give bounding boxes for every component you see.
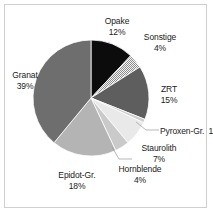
slice-label-staurolith-name: Staurolith: [134, 143, 184, 154]
slice-label-staurolith: Staurolith 7%: [134, 143, 184, 164]
slice-label-opake: Opake 12%: [95, 16, 139, 37]
slice-label-granat-value: 39%: [5, 81, 45, 92]
slice-label-pyroxen: Pyroxen-Gr. 1%: [160, 126, 213, 137]
slice-label-epidot: Epidot-Gr. 18%: [53, 170, 101, 191]
pie-slices-group: [33, 40, 149, 156]
slice-label-zrt: ZRT 15%: [152, 84, 186, 105]
slice-label-sonstige-name: Sonstige: [136, 32, 184, 43]
slice-label-granat-name: Granat: [5, 70, 45, 81]
slice-label-zrt-value: 15%: [152, 95, 186, 106]
slice-label-hornblende: Hornblende 4%: [113, 164, 167, 185]
slice-label-pyroxen-name: Pyroxen-Gr.: [160, 126, 204, 136]
slice-label-sonstige: Sonstige 4%: [136, 32, 184, 53]
slice-label-zrt-name: ZRT: [152, 84, 186, 95]
slice-label-staurolith-value: 7%: [134, 154, 184, 165]
slice-label-epidot-name: Epidot-Gr.: [53, 170, 101, 181]
slice-label-epidot-value: 18%: [53, 181, 101, 192]
pie-chart-figure: Opake 12% Sonstige 4% ZRT 15% Pyroxen-Gr…: [0, 0, 213, 214]
slice-label-opake-value: 12%: [95, 27, 139, 38]
slice-label-sonstige-value: 4%: [136, 43, 184, 54]
slice-label-pyroxen-value: 1%: [209, 126, 213, 136]
slice-label-opake-name: Opake: [95, 16, 139, 27]
slice-label-hornblende-name: Hornblende: [113, 164, 167, 175]
slice-label-granat: Granat 39%: [5, 70, 45, 91]
slice-label-hornblende-value: 4%: [113, 175, 167, 186]
